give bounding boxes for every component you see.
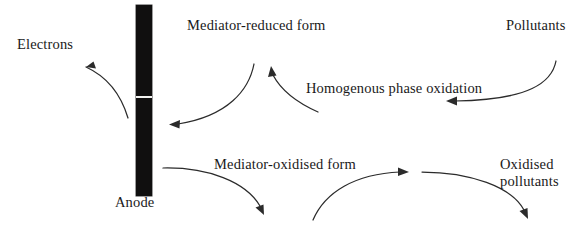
diagram-canvas: Electrons Anode Mediator-reduced form Ho… [0,0,587,229]
label-mediator-oxidised-form: Mediator-oxidised form [214,156,356,173]
label-anode: Anode [115,194,154,211]
mediator-oxidised-to-reaction-arrow [313,168,409,221]
arrow-layer [0,0,587,229]
label-mediator-reduced-form: Mediator-reduced form [187,17,326,34]
mediator-reduced-to-anode-arrow [169,64,254,129]
label-pollutants: Pollutants [506,17,566,34]
label-oxidised-pollutants: Oxidised pollutants [500,156,559,190]
label-homogenous-phase-oxidation: Homogenous phase oxidation [306,80,482,97]
label-electrons: Electrons [17,36,73,53]
anode-to-mediator-oxidised-arrow [163,168,264,215]
electrons-arrow [86,62,128,119]
